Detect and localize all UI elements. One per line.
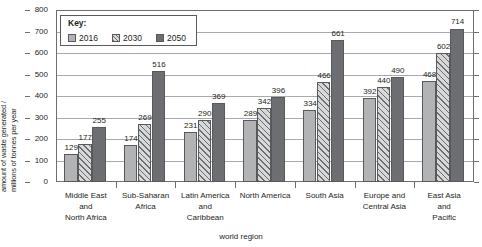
x-axis-label-4-line-1: North America xyxy=(231,190,299,201)
x-axis-label-3: Latin AmericaandCaribbean xyxy=(171,190,239,223)
bar-value-label-2050-group-1: 255 xyxy=(93,117,106,125)
bar-2030-group-6 xyxy=(377,87,391,182)
bar-value-label-2050-group-6: 490 xyxy=(391,67,404,75)
bar-value-label-2050-group-2: 516 xyxy=(152,61,165,69)
bar-value-label-2016-group-6: 392 xyxy=(363,88,376,96)
x-axis-label-2-line-1: Sub-Saharan xyxy=(112,190,180,201)
bar-value-label-2030-group-7: 602 xyxy=(437,43,450,51)
bar-2050-group-6 xyxy=(391,77,405,182)
x-axis-label-3-line-1: Latin America xyxy=(171,190,239,201)
bar-value-label-2050-group-7: 714 xyxy=(451,18,464,26)
bar-value-label-2016-group-1: 129 xyxy=(65,144,78,152)
x-axis-label-6-line-2: Central Asia xyxy=(351,201,419,212)
y-tick-mark-right-400 xyxy=(474,96,479,97)
bar-2030-group-1 xyxy=(78,144,92,182)
x-group-separator-2 xyxy=(175,182,176,188)
bar-2016-group-5 xyxy=(303,110,317,182)
bar-2030-group-2 xyxy=(138,124,152,182)
y-tick-mark-right-800 xyxy=(474,10,479,11)
x-axis-label-4: North America xyxy=(231,190,299,201)
bar-value-label-2030-group-2: 269 xyxy=(138,114,151,122)
x-axis-label-5: South Asia xyxy=(291,190,359,201)
x-group-separator-6 xyxy=(414,182,415,188)
x-axis-label-7-line-2: and xyxy=(410,201,478,212)
x-axis-label-7-line-3: Pacific xyxy=(410,212,478,223)
x-axis-label-1-line-1: Middle East xyxy=(52,190,120,201)
bar-value-label-2030-group-3: 290 xyxy=(198,110,211,118)
x-axis-label-1: Middle EastandNorth Africa xyxy=(52,190,120,223)
bar-2016-group-6 xyxy=(363,98,377,182)
x-axis-label-3-line-3: Caribbean xyxy=(171,212,239,223)
y-tick-mark-right-200 xyxy=(474,139,479,140)
y-axis-title-line-2: millions of tonnes per year xyxy=(9,10,19,192)
x-axis-label-3-line-2: and xyxy=(171,201,239,212)
y-tick-mark-right-600 xyxy=(474,53,479,54)
x-axis-label-7: East AsiaandPacific xyxy=(410,190,478,223)
bar-2050-group-3 xyxy=(212,103,226,182)
y-tick-mark-right-100 xyxy=(474,161,479,162)
legend-swatch-2050 xyxy=(156,34,164,42)
x-axis-label-6: Europe andCentral Asia xyxy=(351,190,419,212)
x-axis-label-6-line-1: Europe and xyxy=(351,190,419,201)
y-tick-mark-800 xyxy=(25,10,30,11)
bar-2050-group-5 xyxy=(331,40,345,182)
y-tick-mark-right-0 xyxy=(474,182,479,183)
bar-value-label-2016-group-5: 334 xyxy=(303,100,316,108)
x-group-separator-3 xyxy=(235,182,236,188)
legend-title: Key: xyxy=(68,19,86,28)
bar-2016-group-1 xyxy=(64,154,78,182)
x-group-separator-1 xyxy=(116,182,117,188)
bar-2016-group-7 xyxy=(422,81,436,182)
bar-2016-group-2 xyxy=(124,145,138,182)
legend: Key: 201620302050 xyxy=(60,15,197,46)
x-group-separator-5 xyxy=(355,182,356,188)
x-axis-label-7-line-1: East Asia xyxy=(410,190,478,201)
y-axis-title-line-1: amount of waste generated / xyxy=(0,10,9,192)
y-tick-mark-right-300 xyxy=(474,118,479,119)
bar-2050-group-7 xyxy=(450,29,464,183)
bar-value-label-2016-group-7: 468 xyxy=(423,71,436,79)
x-axis-title: world region xyxy=(0,232,482,241)
bar-value-label-2016-group-3: 231 xyxy=(184,122,197,130)
bar-value-label-2030-group-4: 342 xyxy=(258,98,271,106)
y-tick-mark-600 xyxy=(25,53,30,54)
x-group-separator-4 xyxy=(295,182,296,188)
bar-2030-group-7 xyxy=(436,53,450,182)
bar-value-label-2030-group-6: 440 xyxy=(377,77,390,85)
x-axis-label-1-line-2: and xyxy=(52,201,120,212)
bar-value-label-2030-group-1: 177 xyxy=(79,134,92,142)
bar-2030-group-5 xyxy=(317,82,331,182)
legend-label-2050: 2050 xyxy=(167,33,186,43)
y-tick-mark-400 xyxy=(25,96,30,97)
bar-2030-group-3 xyxy=(198,120,212,182)
y-tick-mark-right-500 xyxy=(474,75,479,76)
bar-2050-group-2 xyxy=(152,71,166,182)
y-tick-mark-100 xyxy=(25,161,30,162)
bar-2050-group-1 xyxy=(92,127,106,182)
bar-chart: amount of waste generated / millions of … xyxy=(0,0,482,247)
bar-value-label-2050-group-5: 661 xyxy=(331,30,344,38)
x-axis-label-5-line-1: South Asia xyxy=(291,190,359,201)
bar-value-label-2050-group-3: 369 xyxy=(212,93,225,101)
bar-value-label-2016-group-2: 174 xyxy=(124,135,137,143)
y-tick-mark-700 xyxy=(25,32,30,33)
bar-value-label-2016-group-4: 289 xyxy=(244,110,257,118)
y-tick-mark-200 xyxy=(25,139,30,140)
bar-value-label-2030-group-5: 466 xyxy=(317,72,330,80)
x-axis-label-2: Sub-SaharanAfrica xyxy=(112,190,180,212)
bar-2016-group-4 xyxy=(243,120,257,182)
x-axis-label-2-line-2: Africa xyxy=(112,201,180,212)
bar-2030-group-4 xyxy=(257,108,271,182)
bar-2050-group-4 xyxy=(271,97,285,182)
y-tick-mark-500 xyxy=(25,75,30,76)
legend-swatch-2030 xyxy=(112,34,120,42)
legend-label-2030: 2030 xyxy=(123,33,142,43)
x-axis-label-1-line-3: North Africa xyxy=(52,212,120,223)
bar-2016-group-3 xyxy=(184,132,198,182)
legend-label-2016: 2016 xyxy=(79,33,98,43)
y-tick-mark-300 xyxy=(25,118,30,119)
y-tick-mark-right-700 xyxy=(474,32,479,33)
bar-value-label-2050-group-4: 396 xyxy=(272,87,285,95)
legend-swatch-2016 xyxy=(68,34,76,42)
y-tick-mark-0 xyxy=(25,182,30,183)
